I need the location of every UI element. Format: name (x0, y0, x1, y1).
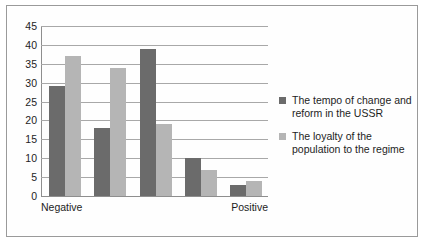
legend-swatch-icon-0 (279, 97, 286, 104)
figure-frame: 454035302520151050 NegativePositive The … (6, 5, 418, 237)
bar-series1-cat3 (201, 170, 217, 196)
bars-layer (41, 26, 268, 196)
legend-swatch-icon-1 (279, 133, 286, 140)
bar-series0-cat1 (94, 128, 110, 196)
y-tick-label-5: 5 (9, 172, 37, 182)
y-tick-label-15: 15 (9, 134, 37, 144)
y-tick-label-35: 35 (9, 59, 37, 69)
gridline-0 (41, 196, 268, 197)
bar-series1-cat2 (156, 124, 172, 196)
bar-group (230, 26, 262, 196)
y-tick-label-25: 25 (9, 97, 37, 107)
bar-group (49, 26, 81, 196)
legend-label-1: The loyalty of the population to the reg… (292, 130, 415, 155)
y-axis-tick-labels: 454035302520151050 (7, 26, 37, 196)
bar-series0-cat2 (140, 49, 156, 196)
x-axis-tick-labels: NegativePositive (41, 201, 268, 217)
y-tick-label-20: 20 (9, 115, 37, 125)
y-tick-label-30: 30 (9, 78, 37, 88)
y-tick-label-45: 45 (9, 21, 37, 31)
bar-series1-cat0 (65, 56, 81, 196)
y-tick-label-40: 40 (9, 40, 37, 50)
bar-group (94, 26, 126, 196)
x-tick-label-positive: Positive (231, 201, 268, 213)
bar-series1-cat4 (246, 181, 262, 196)
plot-area (41, 26, 268, 196)
bar-chart: 454035302520151050 NegativePositive The … (7, 6, 419, 238)
chart-legend: The tempo of change and reform in the US… (279, 94, 415, 166)
bar-series0-cat4 (230, 185, 246, 196)
x-tick-label-negative: Negative (41, 201, 82, 213)
bar-series1-cat1 (110, 68, 126, 196)
bar-group (185, 26, 217, 196)
bar-group (140, 26, 172, 196)
legend-entry-1: The loyalty of the population to the reg… (279, 130, 415, 155)
y-tick-label-0: 0 (9, 191, 37, 201)
bar-series0-cat0 (49, 86, 65, 196)
legend-label-0: The tempo of change and reform in the US… (292, 94, 415, 119)
y-tick-label-10: 10 (9, 153, 37, 163)
bar-series0-cat3 (185, 158, 201, 196)
legend-entry-0: The tempo of change and reform in the US… (279, 94, 415, 119)
